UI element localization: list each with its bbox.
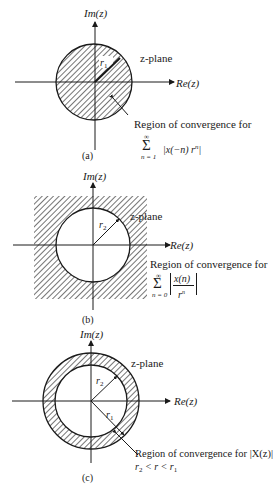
radius-label-a: r1 bbox=[100, 57, 107, 72]
re-axis-label-b: Re(z) bbox=[170, 239, 193, 251]
abs-bar-right-b bbox=[196, 273, 197, 295]
roc-text-b: Region of convergence for bbox=[150, 258, 267, 270]
radius-label-b: r2 bbox=[99, 219, 106, 234]
sum-lower-a: n = 1 bbox=[141, 153, 156, 161]
im-axis-label-b: Im(z) bbox=[83, 170, 106, 182]
abs-bar-left-b bbox=[170, 273, 171, 295]
re-axis-label-c: Re(z) bbox=[174, 395, 197, 407]
sum-symbol-a: Σ bbox=[142, 138, 151, 152]
sum-symbol-b: Σ bbox=[153, 276, 162, 290]
frac-num-b: x(n) bbox=[174, 273, 190, 285]
r1-label-c: r1 bbox=[106, 409, 113, 424]
frac-den-b: rn bbox=[178, 286, 185, 301]
sum-lower-b: n = 0 bbox=[152, 291, 167, 299]
im-axis-label-c: Im(z) bbox=[80, 328, 103, 340]
caption-b: (b) bbox=[82, 314, 94, 326]
sum-expr-a: |x(−n) rn| bbox=[163, 141, 201, 156]
roc-text-a: Region of convergence for bbox=[134, 118, 251, 130]
z-plane-label-a: z-plane bbox=[140, 52, 172, 64]
panel-a bbox=[15, 22, 174, 150]
caption-c: (c) bbox=[82, 472, 93, 484]
re-axis-label-a: Re(z) bbox=[176, 77, 199, 89]
caption-a: (a) bbox=[82, 150, 93, 162]
roc-diagram-canvas bbox=[0, 0, 273, 488]
panel-b bbox=[13, 183, 170, 310]
im-axis-label-a: Im(z) bbox=[84, 7, 107, 19]
inequality-c: r2 < r < r1 bbox=[135, 461, 177, 476]
roc-text-c: Region of convergence for |X(z)| bbox=[135, 448, 273, 460]
z-plane-label-c: z-plane bbox=[131, 357, 163, 369]
r2-label-c: r2 bbox=[96, 375, 103, 390]
z-plane-label-b: z-plane bbox=[130, 210, 162, 222]
